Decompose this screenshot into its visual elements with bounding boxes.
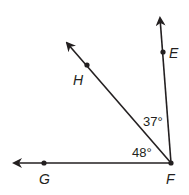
label-g: G bbox=[39, 171, 50, 187]
angle-label-efh: 37° bbox=[143, 114, 163, 129]
angle-diagram: E H G F 37° 48° bbox=[0, 0, 189, 195]
label-f: F bbox=[166, 171, 176, 187]
label-h: H bbox=[73, 72, 84, 88]
label-e: E bbox=[169, 45, 179, 61]
point-f bbox=[168, 160, 173, 165]
angle-label-hfg: 48° bbox=[132, 145, 152, 160]
ray-fe bbox=[160, 18, 171, 163]
ray-fh bbox=[67, 43, 171, 163]
point-h bbox=[84, 62, 89, 67]
point-e bbox=[160, 49, 165, 54]
point-g bbox=[41, 160, 46, 165]
